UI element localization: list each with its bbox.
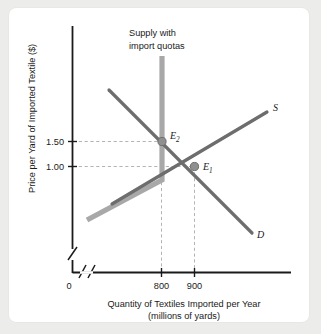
quota-label-line-2: import quotas — [129, 41, 185, 51]
y-tick-label-1-50: 1.50 — [46, 137, 64, 147]
x-axis-subtitle: (millions of yards) — [148, 311, 220, 321]
quota-label-line-1: Supply with — [129, 28, 176, 38]
equilibrium-label-e2-sub: 2 — [176, 136, 180, 144]
supply-curve-s — [112, 112, 267, 204]
x-tick-label-900: 900 — [187, 281, 202, 291]
x-tick-label-800: 800 — [154, 281, 169, 291]
guide-lines-group — [73, 142, 195, 271]
figure-panel: E2 E1 S D Supply with import quotas 1.50… — [9, 8, 309, 322]
equilibrium-marker-e1 — [190, 162, 198, 170]
supply-curve-label: S — [273, 102, 278, 113]
demand-curve-label: D — [256, 229, 265, 240]
y-axis-title: Price per Yard of Imported Textile ($) — [27, 44, 37, 193]
origin-label: 0 — [66, 281, 71, 291]
equilibrium-label-e1-text: E — [202, 161, 209, 172]
equilibrium-label-e2: E2 — [169, 130, 180, 144]
axes-group — [68, 26, 291, 278]
equilibrium-label-e1-sub: 1 — [209, 167, 213, 175]
supply-demand-chart: E2 E1 S D Supply with import quotas 1.50… — [9, 8, 309, 322]
equilibrium-marker-e2 — [158, 137, 166, 145]
x-axis-title: Quantity of Textiles Imported per Year — [107, 299, 260, 309]
equilibrium-label-e1: E1 — [202, 161, 213, 175]
equilibrium-label-e2-text: E — [169, 130, 176, 141]
y-tick-label-1-00: 1.00 — [46, 162, 64, 172]
demand-curve-d — [109, 90, 252, 233]
